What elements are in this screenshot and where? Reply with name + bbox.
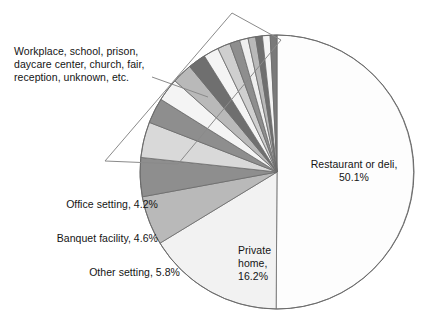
slice-label-private-home: Private home, 16.2%	[238, 244, 298, 284]
slice-label-other-setting: Other setting, 5.8%	[40, 266, 180, 279]
slice-label-restaurant-or-deli: Restaurant or deli, 50.1%	[300, 158, 408, 184]
pie-chart-figure: Workplace, school, prison, daycare cente…	[0, 0, 432, 332]
slice-label-banquet-facility: Banquet facility, 4.6%	[18, 232, 158, 245]
callout-label-grouped-settings: Workplace, school, prison, daycare cente…	[14, 45, 189, 85]
slice-label-office-setting: Office setting, 4.2%	[28, 198, 158, 211]
